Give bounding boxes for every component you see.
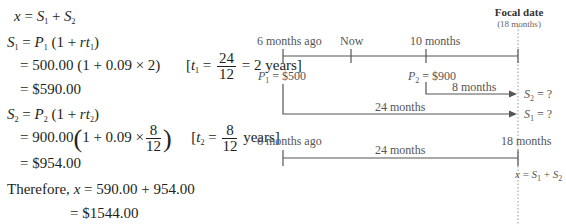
label-p1: P1 = $500 xyxy=(258,69,306,85)
plus: + xyxy=(541,168,553,180)
label-24-months-arrow: 24 months xyxy=(375,100,425,115)
label-10-months: 10 months xyxy=(410,34,460,49)
p1-value: = $500 xyxy=(269,69,306,83)
s1-value: = ? xyxy=(534,107,552,121)
label-p2: P2 = $900 xyxy=(408,69,456,85)
focal-date-title: Focal date xyxy=(492,6,546,18)
s2-value: = ? xyxy=(534,87,552,101)
label-now: Now xyxy=(340,34,363,49)
label-8-months: 8 months xyxy=(452,80,496,95)
p2-value: = $900 xyxy=(419,69,456,83)
label-24-months-span: 24 months xyxy=(375,143,425,158)
eq-sign: = xyxy=(520,168,532,180)
label-s1-unknown: S1 = ? xyxy=(524,107,552,123)
focal-date-subtitle: (18 months) xyxy=(492,19,546,29)
label-x-equals-sum: x = S1 + S2 xyxy=(515,168,562,183)
label-6-months-ago: 6 months ago xyxy=(257,34,322,49)
subscript: 2 xyxy=(558,174,562,183)
arrowhead-s2 xyxy=(509,91,517,98)
arrowhead-s1 xyxy=(509,111,517,118)
label-s2-unknown: S2 = ? xyxy=(524,87,552,103)
label-6-months-ago-2: 6 months ago xyxy=(257,134,322,149)
label-18-months: 18 months xyxy=(501,134,551,149)
